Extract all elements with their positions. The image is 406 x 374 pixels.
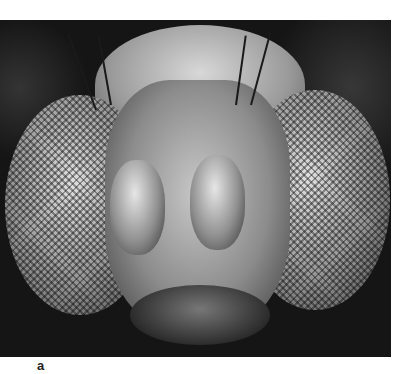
mouthparts xyxy=(130,285,270,345)
antenna-right xyxy=(190,155,245,250)
fly-head-micrograph xyxy=(0,20,391,357)
antenna-left xyxy=(110,160,165,255)
panel-label: a xyxy=(37,358,44,373)
